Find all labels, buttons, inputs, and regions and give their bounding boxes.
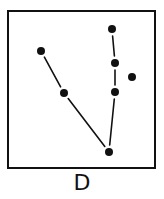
node-dot [128, 73, 136, 81]
diagram-edges [44, 36, 115, 146]
node-dot [37, 47, 45, 55]
figure-label: D [0, 171, 164, 195]
diagram-points [37, 25, 136, 156]
node-dot [111, 59, 119, 67]
edge-line [68, 99, 105, 147]
edge-line [110, 99, 115, 145]
edge-line [113, 36, 115, 56]
diagram-frame [8, 11, 155, 168]
node-dot [108, 25, 116, 33]
edge-line [44, 57, 60, 87]
node-dot [60, 89, 68, 97]
node-dot [111, 88, 119, 96]
node-dot [105, 148, 113, 156]
